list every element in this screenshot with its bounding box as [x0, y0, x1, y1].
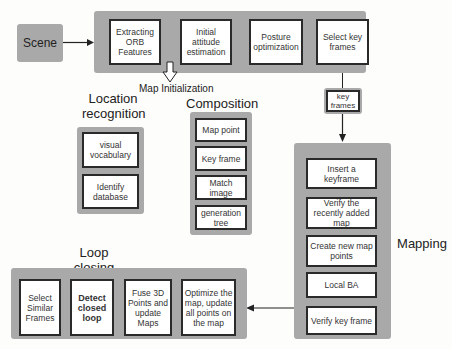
location-recognition-title: Location recognition: [82, 91, 144, 121]
composition-title: Composition: [186, 96, 258, 111]
mapping-item-verify-recent-map: Verify the recently added map: [306, 197, 377, 229]
mapping-item-create-map-points: Create new map points: [306, 235, 377, 267]
tracking-step-select-key-frames: Select key frames: [316, 19, 369, 65]
connector-line: [342, 73, 343, 89]
key-frames-arrow-icon: [338, 114, 348, 144]
loop-item-detect-closed-loop: Detect closed loop: [70, 279, 114, 336]
tracking-step-posture-optimization: Posture optimization: [249, 19, 303, 65]
scene-arrow-icon: [63, 38, 95, 48]
composition-item-map-point: Map point: [195, 118, 247, 142]
scene-node: Scene: [17, 24, 63, 62]
tracking-step-initial-attitude: Initial attitude estimation: [180, 19, 232, 65]
map-initialization-arrow-icon: [162, 62, 178, 84]
composition-item-match-image: Match image: [195, 175, 247, 200]
loop-item-select-similar-frames: Select Similar Frames: [19, 279, 61, 336]
mapping-item-local-ba: Local BA: [306, 272, 377, 298]
location-item-visual-vocabulary: visual vocabulary: [82, 132, 139, 168]
location-item-identify-database: Identify database: [82, 174, 139, 209]
loop-item-optimize-map: Optimize the map, update all points on t…: [181, 279, 236, 336]
composition-item-key-frame: Key frame: [195, 146, 247, 171]
mapping-item-insert-keyframe: Insert a keyframe: [306, 158, 377, 189]
mapping-title: Mapping: [396, 236, 448, 251]
composition-item-generation-tree: generation tree: [195, 205, 247, 230]
tracking-step-extract-orb: Extracting ORB Features: [109, 19, 161, 65]
mapping-to-loop-arrow-icon: [246, 303, 296, 313]
loop-item-fuse-3d-points: Fuse 3D Points and update Maps: [124, 279, 172, 336]
key-frames-node: key frames: [326, 90, 360, 112]
mapping-item-verify-key-frame: Verify key frame: [306, 306, 377, 335]
scene-label: Scene: [23, 36, 57, 50]
map-initialization-label: Map Initialization: [139, 83, 213, 94]
